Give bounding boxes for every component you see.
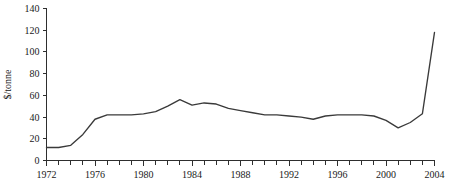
chart-screenshot: 020406080100120140 197219761980198419881… bbox=[0, 0, 454, 195]
y-tick-label: 80 bbox=[30, 68, 40, 79]
y-tick-label: 120 bbox=[25, 25, 40, 36]
y-tick-group: 020406080100120140 bbox=[25, 3, 47, 166]
x-tick-label: 1992 bbox=[279, 169, 299, 180]
y-tick-label: 20 bbox=[30, 133, 40, 144]
x-tick-label: 1976 bbox=[85, 169, 105, 180]
y-axis: 020406080100120140 bbox=[25, 3, 47, 166]
x-tick-label: 1980 bbox=[134, 169, 154, 180]
x-tick-label: 1972 bbox=[37, 169, 57, 180]
y-tick-label: 0 bbox=[35, 155, 40, 166]
y-tick-label: 60 bbox=[30, 90, 40, 101]
y-tick-label: 100 bbox=[25, 46, 40, 57]
line-chart: 020406080100120140 197219761980198419881… bbox=[0, 0, 454, 195]
x-tick-label: 2004 bbox=[425, 169, 445, 180]
y-axis-title: $/tonne bbox=[2, 69, 13, 100]
series-group bbox=[47, 32, 435, 147]
x-tick-label: 1984 bbox=[182, 169, 202, 180]
series-line-price bbox=[47, 32, 435, 147]
x-axis: 197219761980198419881992199620002004 bbox=[37, 161, 445, 180]
y-tick-label: 40 bbox=[30, 112, 40, 123]
x-tick-group: 197219761980198419881992199620002004 bbox=[37, 161, 445, 180]
x-tick-label: 1988 bbox=[231, 169, 251, 180]
y-tick-label: 140 bbox=[25, 3, 40, 14]
x-tick-label: 1996 bbox=[328, 169, 348, 180]
x-tick-label: 2000 bbox=[376, 169, 396, 180]
